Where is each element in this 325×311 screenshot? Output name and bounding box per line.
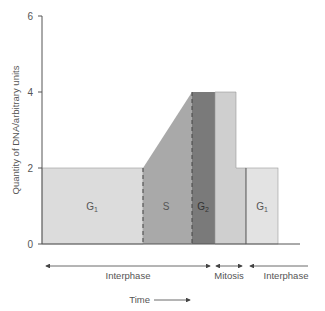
y-tick-label: 0 (27, 239, 33, 250)
dna-cell-cycle-chart: 6 4 2 0 Quantity of DNA/arbitrary units … (0, 0, 325, 311)
y-tick-label: 4 (27, 87, 33, 98)
s-label: S (163, 201, 170, 212)
time-label: Time (129, 294, 150, 305)
mitosis-label: Mitosis (214, 270, 244, 281)
y-ticks: 6 4 2 0 (27, 11, 42, 250)
y-tick-label: 2 (27, 163, 33, 174)
phase-mitosis (215, 92, 246, 244)
phase-g2 (192, 92, 215, 244)
phase-s (143, 92, 192, 244)
y-axis-label: Quantity of DNA/arbitrary units (10, 65, 21, 194)
interphase-next-label: Interphase (264, 270, 309, 281)
interphase-label: Interphase (106, 270, 151, 281)
y-tick-label: 6 (27, 11, 33, 22)
